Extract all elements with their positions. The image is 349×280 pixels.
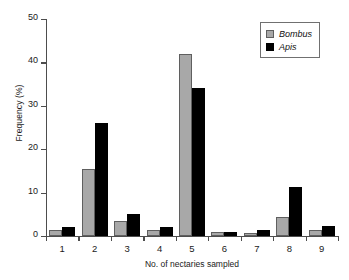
legend-item-bombus: Bombus bbox=[266, 27, 312, 40]
bar-group bbox=[210, 19, 238, 236]
x-category-label: 5 bbox=[175, 243, 209, 254]
bar-group bbox=[146, 19, 174, 236]
gray-square-swatch-icon bbox=[266, 30, 274, 38]
x-tick bbox=[176, 236, 177, 241]
bar-group bbox=[113, 19, 141, 236]
bar-apis-7 bbox=[257, 230, 270, 236]
bar-group bbox=[81, 19, 109, 236]
bar-apis-8 bbox=[289, 187, 302, 236]
x-category-label: 3 bbox=[110, 243, 144, 254]
y-tick-label: 0 bbox=[33, 229, 38, 239]
black-square-swatch-icon bbox=[266, 43, 274, 51]
x-tick bbox=[208, 236, 209, 241]
x-axis-title: No. of nectaries sampled bbox=[46, 259, 338, 269]
bar-apis-1 bbox=[62, 227, 75, 236]
x-category-label: 6 bbox=[207, 243, 241, 254]
bar-bombus-5 bbox=[179, 54, 192, 236]
bar-apis-9 bbox=[322, 226, 335, 236]
bar-bombus-4 bbox=[147, 230, 160, 236]
x-category-label: 8 bbox=[272, 243, 306, 254]
y-tick-label: 40 bbox=[28, 55, 38, 65]
legend-label-bombus: Bombus bbox=[279, 29, 312, 39]
bar-bombus-6 bbox=[211, 232, 224, 236]
x-category-label: 1 bbox=[45, 243, 79, 254]
bar-bombus-3 bbox=[114, 221, 127, 236]
y-axis-title: Frequency (%) bbox=[14, 48, 24, 178]
x-tick bbox=[78, 236, 79, 241]
legend-item-apis: Apis bbox=[266, 40, 312, 53]
x-category-label: 4 bbox=[143, 243, 177, 254]
x-tick bbox=[111, 236, 112, 241]
bar-group bbox=[178, 19, 206, 236]
x-tick bbox=[273, 236, 274, 241]
bar-bombus-7 bbox=[244, 233, 257, 236]
x-axis-line bbox=[46, 236, 338, 237]
bar-bombus-9 bbox=[309, 230, 322, 236]
bar-bombus-2 bbox=[82, 169, 95, 236]
bar-group bbox=[48, 19, 76, 236]
x-tick bbox=[306, 236, 307, 241]
bar-apis-2 bbox=[95, 123, 108, 236]
bar-bombus-1 bbox=[49, 230, 62, 237]
y-tick-label: 10 bbox=[28, 186, 38, 196]
bar-bombus-8 bbox=[276, 217, 289, 236]
chart-legend: Bombus Apis bbox=[260, 22, 320, 58]
y-tick-label: 30 bbox=[28, 99, 38, 109]
y-tick-label: 50 bbox=[28, 12, 38, 22]
x-tick bbox=[241, 236, 242, 241]
x-tick bbox=[143, 236, 144, 241]
bar-apis-6 bbox=[224, 232, 237, 236]
x-category-label: 2 bbox=[78, 243, 112, 254]
x-category-label: 9 bbox=[305, 243, 339, 254]
legend-label-apis: Apis bbox=[279, 42, 297, 52]
y-tick-label: 20 bbox=[28, 142, 38, 152]
x-category-label: 7 bbox=[240, 243, 274, 254]
bar-apis-5 bbox=[192, 88, 205, 236]
x-tick bbox=[46, 236, 47, 241]
bar-apis-4 bbox=[160, 227, 173, 236]
bar-apis-3 bbox=[127, 214, 140, 236]
x-tick bbox=[338, 236, 339, 241]
bar-chart-figure: Frequency (%) 01020304050 123456789 No. … bbox=[0, 0, 349, 280]
